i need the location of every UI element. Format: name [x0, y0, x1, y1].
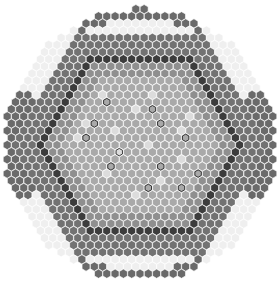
hex-cell: [95, 269, 103, 278]
hex-cell: [215, 248, 223, 257]
hex-cell: [45, 241, 53, 250]
hex-cell: [103, 269, 111, 278]
hex-cell: [111, 269, 119, 278]
hex-cell: [144, 269, 152, 278]
core-map: [0, 0, 277, 284]
hex-cell: [161, 269, 169, 278]
hex-cell: [128, 269, 136, 278]
hex-cell: [178, 269, 186, 278]
hex-cell: [190, 262, 198, 271]
hex-cell: [119, 269, 127, 278]
hex-cell: [153, 269, 161, 278]
hex-cell: [57, 248, 65, 257]
hex-cell: [169, 269, 177, 278]
hex-cell: [70, 255, 78, 264]
hex-cell: [136, 269, 144, 278]
hex-cell: [227, 241, 235, 250]
hex-cell-grid: [3, 5, 277, 279]
hex-cell: [202, 255, 210, 264]
hex-cell: [82, 262, 90, 271]
